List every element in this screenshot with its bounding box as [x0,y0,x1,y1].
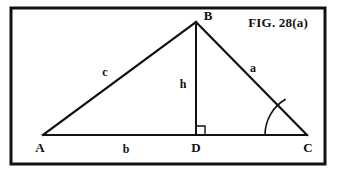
vertex-label-b: B [204,8,213,23]
segment-side-a [196,22,307,135]
right-angle-square-icon [196,126,205,135]
side-label-h: h [180,77,187,91]
figure-caption: FIG. 28(a) [248,15,308,30]
figure-border [11,8,325,164]
segment-side-c [43,22,196,135]
figure-container: A B C D c a b h FIG. 28(a) [0,0,338,174]
vertex-label-c: C [303,140,312,155]
side-label-b: b [123,142,130,156]
triangle-figure-svg: A B C D c a b h FIG. 28(a) [0,0,338,174]
vertex-label-a: A [35,140,45,155]
vertex-label-d: D [191,140,200,155]
side-label-c: c [102,65,108,79]
side-label-a: a [250,61,256,75]
angle-arc-at-c [265,100,285,136]
